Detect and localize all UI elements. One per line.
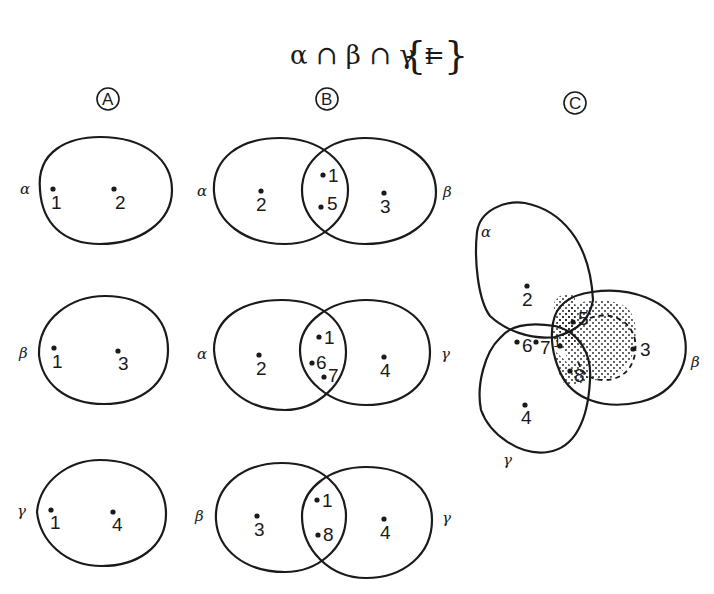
panel-c-three-set-venn: α β γ 2 5 6 7 1 8 3 4 [476,202,700,469]
set-label-gamma: γ [441,345,450,363]
point-label: 1 [322,490,333,511]
point-label: 1 [328,165,339,186]
set-label-alpha: α [197,182,207,200]
point-label: 2 [256,194,267,215]
equation-open-brace: { [402,33,426,77]
set-label-beta: β [442,183,452,201]
point-label: 1 [51,192,62,213]
set-label-gamma: γ [503,451,512,469]
panel-b-beta-gamma: β γ 3 1 8 4 [194,463,451,578]
point-label: 6 [316,352,327,373]
panel-label-b-text: B [321,90,332,109]
point-label: 3 [380,196,391,217]
point-label: 6 [522,335,533,356]
point-label: 1 [553,333,561,350]
panel-a-set-beta: β 1 3 [18,296,168,404]
set-label-alpha: α [481,223,491,241]
set-label-beta: β [194,507,204,525]
point-label: 1 [50,512,61,533]
panel-b-alpha-gamma: α γ 2 1 6 7 4 [197,300,450,410]
panel-b-alpha-beta: α β 2 1 5 3 [197,138,452,244]
panel-a-set-gamma: γ 1 4 [17,460,166,566]
point-label: 7 [328,365,339,386]
point-label: 4 [521,407,532,428]
venn-diagram-canvas: α ∩ β ∩ γ = { I } A B C α 1 2 β 1 3 γ 1 [0,0,714,594]
point-label: 8 [574,365,585,386]
point-label: 4 [112,514,123,535]
point-label: 8 [323,524,334,545]
point-label: 2 [115,192,126,213]
point-label: 5 [327,193,338,214]
set-label-beta: β [690,353,700,371]
panel-label-b: B [316,88,338,110]
point-label: 5 [578,308,589,329]
point-label: 3 [254,519,265,540]
point-label: 1 [52,351,63,372]
equation: α ∩ β ∩ γ = { I } [290,33,468,77]
equation-close-brace: } [444,33,468,77]
panel-label-c: C [564,92,586,114]
point-label: 2 [522,289,533,310]
point-label: 4 [380,522,391,543]
panel-label-c-text: C [569,94,581,113]
equation-element: I [425,44,434,69]
set-label-gamma: γ [17,502,26,520]
point-label: 3 [640,339,651,360]
point-label: 4 [380,360,391,381]
shaded-region [551,294,635,385]
point-label: 1 [324,327,335,348]
set-label-beta: β [18,344,28,362]
panel-label-a: A [97,88,119,110]
panel-label-a-text: A [102,90,114,109]
set-label-alpha: α [197,345,207,363]
set-label-alpha: α [20,180,30,198]
point-label: 3 [118,353,129,374]
point-label: 2 [256,358,267,379]
set-label-gamma: γ [442,509,451,527]
point-label: 7 [540,337,551,358]
panel-a-set-alpha: α 1 2 [20,137,172,244]
